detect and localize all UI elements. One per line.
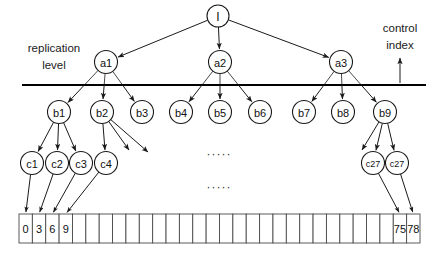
array-cell <box>179 214 192 243</box>
edge-b1-c3 <box>64 123 76 152</box>
node-a1: a1 <box>95 51 118 74</box>
array-cell <box>233 214 246 243</box>
array-cell <box>246 214 259 243</box>
edge-a2-to-line <box>202 71 213 85</box>
node-label-a1: a1 <box>100 57 112 69</box>
node-label-b7: b7 <box>298 107 310 119</box>
array-cell <box>286 214 299 243</box>
control-index-array: 03697578 <box>19 214 420 243</box>
node-b1: b1 <box>48 101 71 124</box>
edge-a3-to-line <box>324 71 334 85</box>
array-cell-value: 0 <box>23 223 29 235</box>
array-cell <box>326 214 339 243</box>
edge-a2-to-line <box>227 71 238 85</box>
control-index-label-line2: index <box>386 39 414 51</box>
edge-c27b-to-cell-29 <box>401 174 413 212</box>
node-label-b3: b3 <box>136 107 148 119</box>
node-label-b6: b6 <box>254 107 266 119</box>
node-label-a2: a2 <box>214 57 226 69</box>
node-b2: b2 <box>91 101 114 124</box>
node-a2: a2 <box>209 51 232 74</box>
replication-level-label-line2: level <box>42 59 66 71</box>
node-b5: b5 <box>209 101 232 124</box>
node-root: I <box>207 5 229 27</box>
node-label-b8: b8 <box>337 107 349 119</box>
edge-a3-to-line <box>349 71 362 85</box>
node-b4: b4 <box>170 101 193 124</box>
array-cell-value: 6 <box>49 223 55 235</box>
edge-b9-c27b <box>388 123 394 150</box>
edge-line-to-b3 <box>123 85 135 101</box>
node-a3: a3 <box>330 51 353 74</box>
edge-line-to-b4 <box>189 85 202 102</box>
edge-root-a2 <box>218 27 219 49</box>
array-cell <box>113 214 126 243</box>
ellipsis-markers: ·········· <box>207 147 232 194</box>
edge-root-a1 <box>118 20 208 57</box>
array-cell-value: 75 <box>394 223 406 235</box>
edge-c4-to-cell-3 <box>67 172 99 212</box>
array-cell <box>99 214 112 243</box>
node-b9: b9 <box>374 101 397 124</box>
node-label-b2: b2 <box>96 107 108 119</box>
node-b3: b3 <box>131 101 154 124</box>
control-index-tree-diagram: 03697578 Ia1a2a3b1b2b3b4b5b6b7b8b9c1c2c3… <box>0 0 437 261</box>
edge-a1-to-line <box>113 71 123 85</box>
edge-line-to-b8 <box>342 85 343 99</box>
node-label-c1: c1 <box>26 158 38 170</box>
node-b6: b6 <box>249 101 272 124</box>
array-cell <box>193 214 206 243</box>
array-cell <box>353 214 366 243</box>
node-label-b4: b4 <box>175 107 187 119</box>
edge-b9-dangling-2 <box>362 122 379 150</box>
array-cell <box>206 214 219 243</box>
edge-b9-c27a <box>376 123 382 150</box>
array-cell <box>86 214 99 243</box>
node-label-b1: b1 <box>53 107 65 119</box>
node-c2: c2 <box>46 152 69 175</box>
edge-b2-dangling-0 <box>109 121 129 150</box>
edge-root-a3 <box>228 20 329 58</box>
array-cell-value: 3 <box>36 223 42 235</box>
node-label-b9: b9 <box>379 107 391 119</box>
node-b8: b8 <box>332 101 355 124</box>
node-label-root: I <box>216 10 219 24</box>
replication-level-label-line1: replication <box>28 42 80 54</box>
array-cell <box>166 214 179 243</box>
node-b7: b7 <box>293 101 316 124</box>
node-label-b5: b5 <box>214 107 226 119</box>
control-index-label-line1: control <box>383 22 418 34</box>
array-cell <box>153 214 166 243</box>
edge-b1-c2 <box>58 123 59 150</box>
edges-line-to-b <box>68 85 377 103</box>
node-c27b: c27 <box>386 152 409 175</box>
array-cell <box>273 214 286 243</box>
edge-b2-c4 <box>103 123 105 150</box>
edge-line-to-b1 <box>68 85 84 103</box>
ellipsis-marker-1: ····· <box>207 180 232 194</box>
edge-line-to-b9 <box>361 85 376 102</box>
array-cell <box>72 214 85 243</box>
node-label-c2: c2 <box>51 158 63 170</box>
array-cell <box>139 214 152 243</box>
edge-c2-to-cell-1 <box>40 174 53 212</box>
array-cell <box>367 214 380 243</box>
edge-a1-to-line <box>84 70 98 85</box>
array-cell-value: 9 <box>63 223 69 235</box>
node-label-a3: a3 <box>335 57 347 69</box>
node-c4: c4 <box>95 152 118 175</box>
diagram-canvas: 03697578 Ia1a2a3b1b2b3b4b5b6b7b8b9c1c2c3… <box>0 0 437 261</box>
node-label-c27b: c27 <box>390 159 405 169</box>
array-cell-value: 78 <box>407 223 419 235</box>
node-label-c4: c4 <box>100 158 112 170</box>
node-label-c27a: c27 <box>366 159 381 169</box>
ellipsis-marker-0: ····· <box>207 147 232 161</box>
node-c3: c3 <box>70 152 93 175</box>
edge-line-to-b6 <box>238 85 251 102</box>
edge-line-to-b7 <box>312 85 324 102</box>
edge-line-to-b2 <box>103 85 104 99</box>
edge-c27a-to-cell-28 <box>378 173 399 212</box>
edge-b1-c1 <box>38 122 54 151</box>
array-cell <box>126 214 139 243</box>
array-cell <box>380 214 393 243</box>
